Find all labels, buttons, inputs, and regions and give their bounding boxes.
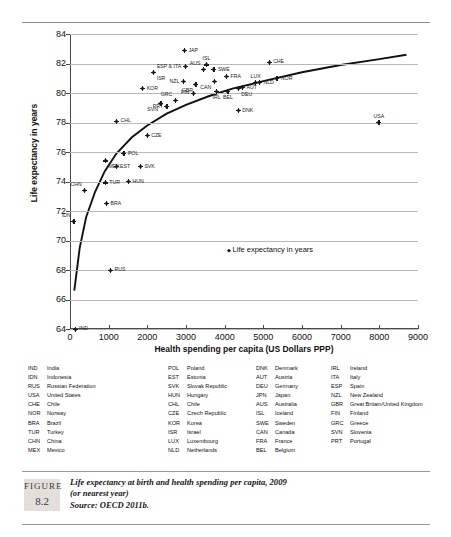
data-point-label: EST bbox=[120, 164, 130, 169]
key-country-name: Brazil bbox=[47, 420, 61, 426]
key-country-name: China bbox=[47, 438, 62, 444]
y-tick-label: 76 bbox=[38, 148, 66, 157]
y-tick-mark bbox=[66, 64, 70, 65]
key-code: FRA bbox=[256, 437, 275, 446]
x-tick-label: 7000 bbox=[321, 333, 361, 342]
key-entry: BRABrazil bbox=[28, 419, 148, 428]
key-entry: BELBelgium bbox=[256, 446, 328, 455]
x-tick-label: 1000 bbox=[89, 333, 129, 342]
key-code: NOR bbox=[28, 409, 47, 418]
key-entry: CANCanada bbox=[256, 428, 328, 437]
data-point-marker bbox=[193, 82, 198, 87]
x-tick-mark bbox=[225, 325, 226, 329]
key-code: ISL bbox=[256, 409, 275, 418]
data-point-marker bbox=[108, 268, 113, 273]
key-code: AUT bbox=[256, 373, 275, 382]
data-point-label: AUT bbox=[246, 85, 256, 90]
data-point-marker bbox=[82, 188, 87, 193]
key-entry: INDIndia bbox=[28, 364, 148, 373]
x-tick-mark bbox=[302, 325, 303, 329]
key-entry: POLPoland bbox=[168, 364, 253, 373]
x-axis-title: Health spending per capita (US Dollars P… bbox=[70, 344, 418, 354]
figure-number: 8.2 bbox=[24, 494, 60, 508]
y-tick-mark bbox=[66, 182, 70, 183]
data-point-label: BRA bbox=[110, 201, 121, 206]
key-country-name: Luxembourg bbox=[187, 438, 218, 444]
data-point-marker bbox=[71, 219, 76, 224]
data-point-label: ISL bbox=[203, 56, 211, 61]
data-point-label: GBR bbox=[182, 88, 193, 93]
key-country-name: Chile bbox=[187, 401, 200, 407]
x-tick-label: 6000 bbox=[282, 333, 322, 342]
y-tick-mark bbox=[66, 93, 70, 94]
key-entry: CHEChile bbox=[28, 400, 148, 409]
key-code: DNK bbox=[256, 364, 275, 373]
key-country-name: Norway bbox=[47, 410, 66, 416]
data-point-label: IND bbox=[79, 326, 88, 331]
key-entry: RUSRussian Federation bbox=[28, 382, 148, 391]
gridline-y bbox=[70, 329, 418, 330]
y-tick-label: 68 bbox=[38, 266, 66, 275]
data-point-marker bbox=[183, 64, 188, 69]
key-entry: DNKDenmark bbox=[256, 364, 328, 373]
key-code: CHL bbox=[168, 400, 187, 409]
data-point-marker bbox=[114, 164, 119, 169]
gridline-y bbox=[70, 241, 418, 242]
key-country-name: Mexico bbox=[47, 447, 65, 453]
key-entry: FINFinland bbox=[331, 409, 451, 418]
key-entry: JPNJapan bbox=[256, 391, 328, 400]
data-point-marker bbox=[173, 98, 178, 103]
y-tick-mark bbox=[66, 123, 70, 124]
x-tick-label: 0 bbox=[50, 333, 90, 342]
key-entry: ISLIceland bbox=[256, 409, 328, 418]
data-point-label: HUN bbox=[132, 179, 143, 184]
gridline-y bbox=[70, 64, 418, 65]
data-point-label: SVK bbox=[144, 164, 154, 169]
key-country-name: Czech Republic bbox=[187, 410, 226, 416]
key-code: BRA bbox=[28, 419, 47, 428]
key-entry: NORNorway bbox=[28, 409, 148, 418]
data-point-marker bbox=[151, 70, 156, 75]
key-entry: GRCGreece bbox=[331, 419, 451, 428]
key-country-name: Estonia bbox=[187, 374, 206, 380]
data-point-marker bbox=[267, 60, 272, 65]
data-point-label: NLD bbox=[263, 80, 273, 85]
data-point-marker bbox=[145, 133, 150, 138]
key-code: GBR bbox=[331, 400, 350, 409]
key-code: CHN bbox=[28, 437, 47, 446]
key-code: FIN bbox=[331, 409, 350, 418]
x-tick-label: 3000 bbox=[166, 333, 206, 342]
figure-word: FIGURE bbox=[24, 479, 60, 494]
data-point-marker bbox=[201, 67, 206, 72]
key-code: EST bbox=[168, 373, 187, 382]
key-country-name: Japan bbox=[275, 392, 290, 398]
key-country-name: Great Britain/United Kingdom bbox=[350, 401, 423, 407]
data-point-label: DEU bbox=[241, 92, 252, 97]
data-point-marker bbox=[140, 86, 145, 91]
key-country-name: Korea bbox=[187, 420, 202, 426]
key-code: TUR bbox=[28, 428, 47, 437]
y-tick-label: 80 bbox=[38, 89, 66, 98]
chart-container: Life expectancy in years 646668707274767… bbox=[22, 28, 430, 358]
key-code: DEU bbox=[256, 382, 275, 391]
key-code: RUS bbox=[28, 382, 47, 391]
y-tick-mark bbox=[66, 241, 70, 242]
key-code: AUS bbox=[256, 400, 275, 409]
x-tick-label: 4000 bbox=[205, 333, 245, 342]
caption-top-divider bbox=[22, 471, 430, 472]
data-point-marker bbox=[204, 62, 209, 67]
key-entry: NZLNew Zealand bbox=[331, 391, 451, 400]
key-country-name: Finland bbox=[350, 410, 368, 416]
key-code: ISR bbox=[168, 428, 187, 437]
key-code: GRC bbox=[331, 419, 350, 428]
key-entry: IDNIndonesia bbox=[28, 373, 148, 382]
y-tick-label: 78 bbox=[38, 118, 66, 127]
key-country-name: Israel bbox=[187, 429, 201, 435]
data-point-label: CZE bbox=[151, 133, 161, 138]
key-country-name: Australia bbox=[275, 401, 297, 407]
y-tick-label: 82 bbox=[38, 59, 66, 68]
key-entry: SVKSlovak Republic bbox=[168, 382, 253, 391]
data-point-label: TUR bbox=[109, 180, 120, 185]
key-entry: DEUGermany bbox=[256, 382, 328, 391]
caption-line-3: Source: OECD 2011b. bbox=[70, 500, 149, 510]
